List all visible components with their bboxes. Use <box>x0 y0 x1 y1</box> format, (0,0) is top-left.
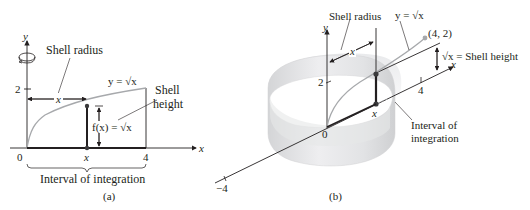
a-shell-height-label-2: height <box>153 98 183 110</box>
b-y-axis-label: y <box>323 21 328 33</box>
b-curve-label: y = √x <box>395 9 424 21</box>
b-interval-label-1: Interval of <box>411 119 457 131</box>
b-tick-x-4: 4 <box>418 84 424 96</box>
a-interval-label: Interval of integration <box>40 173 145 185</box>
b-interval-label-2: integration <box>411 132 459 144</box>
a-fx-label: f(x) = √x <box>92 121 132 133</box>
b-shell-radius-label: Shell radius <box>329 10 381 22</box>
a-curve-label: y = √x <box>108 75 137 87</box>
a-interval-brace <box>27 164 146 172</box>
a-tick-x-4: 4 <box>143 151 149 163</box>
b-tick-x-neg4: −4 <box>216 182 228 194</box>
b-tick-y-2: 2 <box>318 76 324 88</box>
a-shell-radius-label: Shell radius <box>46 44 103 56</box>
b-tick-origin: 0 <box>322 128 328 140</box>
b-x-axis-label: x <box>451 58 456 70</box>
a-radius-var: x <box>54 93 63 105</box>
a-tick-x-0: 0 <box>17 151 23 163</box>
b-point-label: (4, 2) <box>428 27 452 39</box>
a-tick-y-2: 2 <box>15 83 21 95</box>
a-shell-height-label-1: Shell <box>155 84 180 96</box>
b-caption: (b) <box>329 190 342 202</box>
b-radius-var: x <box>349 45 356 57</box>
a-x-axis-label: x <box>199 142 204 154</box>
a-y-axis-label: y <box>23 30 28 42</box>
a-caption: (a) <box>103 190 115 202</box>
b-tick-x-x: x <box>372 107 377 119</box>
a-tick-x-x: x <box>84 151 89 163</box>
